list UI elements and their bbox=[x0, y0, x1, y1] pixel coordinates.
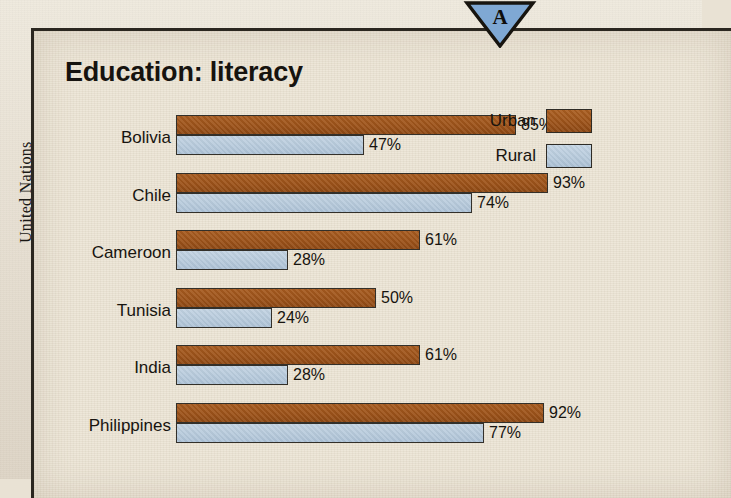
legend-label: Rural bbox=[495, 146, 536, 166]
category-label: Cameroon bbox=[92, 244, 171, 261]
legend-swatch-urban bbox=[546, 109, 592, 133]
bar-value-label: 47% bbox=[369, 135, 401, 155]
bar-urban bbox=[176, 403, 544, 423]
chart-panel: Education: literacy Bolivia85%47%Chile93… bbox=[31, 28, 731, 498]
bar-chart-plot-area: Bolivia85%47%Chile93%74%Cameroon61%28%Tu… bbox=[34, 31, 731, 498]
bar-urban bbox=[176, 345, 420, 365]
bar-rural bbox=[176, 365, 288, 385]
category-label: Bolivia bbox=[121, 129, 171, 146]
bar-value-label: 93% bbox=[553, 173, 585, 193]
bar-value-label: 24% bbox=[277, 308, 309, 328]
bar-value-label: 28% bbox=[293, 250, 325, 270]
bar-rural bbox=[176, 423, 484, 443]
bar-rural bbox=[176, 308, 272, 328]
legend-swatch-rural bbox=[546, 144, 592, 168]
bar-rural bbox=[176, 135, 364, 155]
bar-value-label: 92% bbox=[549, 403, 581, 423]
category-label: Philippines bbox=[89, 417, 171, 434]
triangle-down-marker-icon: A bbox=[463, 0, 537, 48]
category-label: India bbox=[134, 359, 171, 376]
marker-label: A bbox=[463, 5, 537, 30]
bar-value-label: 77% bbox=[489, 423, 521, 443]
bar-urban bbox=[176, 288, 376, 308]
category-label: Chile bbox=[132, 187, 171, 204]
category-label: Tunisia bbox=[117, 302, 171, 319]
bar-rural bbox=[176, 250, 288, 270]
legend-label: Urban bbox=[490, 111, 536, 131]
bar-value-label: 74% bbox=[477, 193, 509, 213]
bar-value-label: 61% bbox=[425, 230, 457, 250]
bar-urban bbox=[176, 173, 548, 193]
bar-rural bbox=[176, 193, 472, 213]
bar-urban bbox=[176, 115, 516, 135]
bar-urban bbox=[176, 230, 420, 250]
bar-value-label: 28% bbox=[293, 365, 325, 385]
bar-value-label: 61% bbox=[425, 345, 457, 365]
bar-value-label: 50% bbox=[381, 288, 413, 308]
